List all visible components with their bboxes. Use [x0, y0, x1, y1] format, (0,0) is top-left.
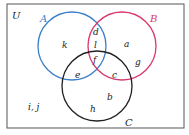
venn-diagram: U A B C k d l f e a g c b h i, j: [0, 0, 189, 135]
universe-label: U: [12, 10, 21, 21]
region-b-only-lower: g: [135, 57, 141, 67]
region-b-only-upper: a: [124, 39, 129, 49]
region-c-only-bottom: h: [90, 104, 96, 114]
region-a-c: e: [75, 70, 80, 80]
set-b-label: B: [149, 13, 157, 24]
set-a-label: A: [39, 13, 47, 24]
region-a-b-c-upper: l: [94, 40, 97, 50]
region-outside: i, j: [28, 102, 40, 112]
region-a-b: d: [93, 27, 99, 37]
region-a-only: k: [62, 40, 67, 50]
set-c-label: C: [125, 117, 133, 128]
region-c-only-right: b: [107, 92, 113, 102]
region-b-c: c: [112, 70, 117, 80]
